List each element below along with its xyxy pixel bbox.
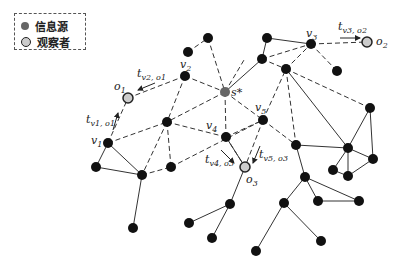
observer-o2 xyxy=(362,37,372,47)
legend-item-observer: 观察者 xyxy=(21,34,70,50)
label-v2: v2 xyxy=(180,58,191,73)
label-o3: o3 xyxy=(246,173,258,188)
label-o2: o2 xyxy=(376,35,388,50)
node xyxy=(343,143,353,153)
node xyxy=(313,196,323,206)
node xyxy=(365,103,375,113)
dashed-edges xyxy=(108,38,370,175)
node xyxy=(91,162,101,172)
label-t-v1-o1: tv1, o1 xyxy=(86,113,115,128)
legend: 信息源 观察者 xyxy=(14,13,86,50)
node xyxy=(183,47,193,57)
node xyxy=(251,246,261,256)
label-v3: v3 xyxy=(306,27,317,42)
node xyxy=(354,196,364,206)
node xyxy=(368,154,378,164)
label-t-v3-o2: tv3, o2 xyxy=(338,20,367,35)
node xyxy=(184,218,194,228)
node xyxy=(291,140,301,150)
node-v1 xyxy=(103,138,113,148)
observer-o3 xyxy=(240,162,250,172)
node xyxy=(328,165,338,175)
label-t-v5-o3: tv5, o3 xyxy=(259,148,288,163)
node xyxy=(300,172,310,182)
legend-label: 信息源 xyxy=(35,18,68,34)
observer-dot-icon xyxy=(21,37,31,47)
node xyxy=(207,233,217,243)
node xyxy=(203,33,213,43)
node xyxy=(332,66,342,76)
source-dot-icon xyxy=(21,22,29,30)
node xyxy=(262,33,272,43)
node xyxy=(281,64,291,74)
node xyxy=(162,117,172,127)
node xyxy=(137,170,147,180)
label-v4: v4 xyxy=(206,119,217,134)
node xyxy=(257,54,267,64)
node xyxy=(225,199,235,209)
node xyxy=(128,223,138,233)
label-source: s* xyxy=(231,86,242,99)
label-t-v2-o1: tv2, o1 xyxy=(137,67,166,82)
node-v5 xyxy=(258,115,268,125)
observer-nodes xyxy=(123,37,372,172)
node xyxy=(316,236,326,246)
label-v1: v1 xyxy=(91,134,102,149)
node xyxy=(279,198,289,208)
legend-item-source: 信息源 xyxy=(21,18,68,34)
label-o1: o1 xyxy=(114,80,126,95)
node xyxy=(166,162,176,172)
source-node xyxy=(220,87,230,97)
node xyxy=(343,171,353,181)
label-t-v4-o3: tv4, o3 xyxy=(205,153,234,168)
legend-label: 观察者 xyxy=(37,34,70,50)
label-v5: v5 xyxy=(255,101,266,116)
node-v4 xyxy=(221,132,231,142)
